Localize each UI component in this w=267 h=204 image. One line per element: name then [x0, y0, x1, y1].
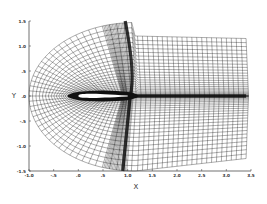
- x-tick-label: 2.0: [173, 173, 181, 178]
- y-tick-label: .5: [21, 69, 26, 74]
- y-tick-label: 1.0: [19, 44, 27, 49]
- x-tick-label: .5: [101, 173, 106, 178]
- x-tick-label: .0: [76, 173, 81, 178]
- y-tick-label: -.5: [20, 119, 26, 124]
- x-tick-label: 1.5: [149, 173, 157, 178]
- y-tick-label: -1.5: [17, 169, 26, 174]
- x-tick-label: 1.0: [124, 173, 132, 178]
- x-tick-label: -.5: [51, 173, 57, 178]
- x-axis-title: X: [134, 183, 139, 191]
- y-tick-label: 1.5: [19, 19, 27, 24]
- x-tick-label: -1.0: [24, 173, 33, 178]
- x-tick-label: 2.5: [198, 173, 206, 178]
- y-tick-label: .0: [21, 94, 26, 99]
- x-tick-label: 3.5: [247, 173, 255, 178]
- x-tick-label: 3.0: [223, 173, 231, 178]
- y-axis-title: Y: [11, 92, 17, 100]
- y-tick-label: -1.0: [17, 144, 26, 149]
- mesh-plot: -1.0-.5.0.51.01.52.02.53.03.51.51.0.5.0-…: [0, 0, 267, 204]
